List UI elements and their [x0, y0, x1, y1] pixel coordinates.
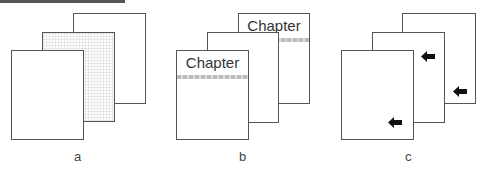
arrow-left-icon [421, 51, 435, 62]
arrow-left-icon [388, 117, 402, 128]
page-front: Chapter [176, 50, 249, 140]
page-front [341, 50, 414, 140]
panel-label: a [74, 149, 81, 164]
top-rule [0, 0, 125, 3]
arrow-left-icon [453, 86, 467, 97]
panel-label: b [239, 149, 246, 164]
chapter-divider [177, 75, 248, 79]
panel-label: c [405, 149, 412, 164]
chapter-heading: Chapter [177, 54, 248, 71]
page-front [11, 50, 84, 140]
